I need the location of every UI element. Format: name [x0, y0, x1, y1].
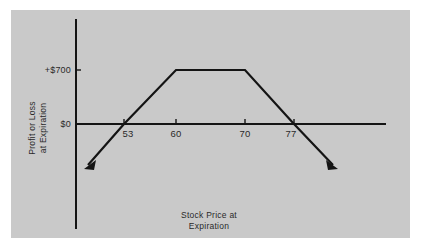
x-tick-label-60: 60 [171, 128, 182, 139]
payoff-line [88, 70, 333, 165]
x-axis-title-line2: Expiration [189, 221, 229, 231]
y-axis-title-line1: Profit or Loss [27, 101, 37, 155]
x-tick-label-77: 77 [286, 128, 297, 139]
y-tick-label-zero: $0 [61, 119, 71, 129]
chart-panel: +$700 $0 53 60 70 77 Profit or Loss at E… [11, 10, 410, 238]
payoff-chart-svg: +$700 $0 53 60 70 77 Profit or Loss at E… [11, 10, 410, 238]
x-axis-title-line1: Stock Price at [181, 210, 237, 220]
x-axis-title: Stock Price at Expiration [181, 210, 237, 231]
y-axis-title-line2: at Expiration [38, 103, 48, 154]
y-axis-title: Profit or Loss at Expiration [27, 101, 48, 155]
y-tick-label-max-profit: +$700 [45, 65, 71, 75]
figure-root: +$700 $0 53 60 70 77 Profit or Loss at E… [0, 0, 422, 248]
x-tick-label-53: 53 [123, 128, 134, 139]
x-tick-label-70: 70 [240, 128, 251, 139]
right-arrow-head-icon [326, 160, 338, 170]
